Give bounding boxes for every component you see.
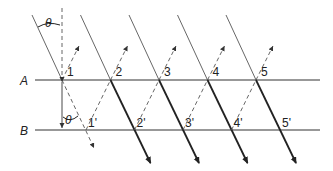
point-label-b: 1' [88,116,97,130]
point-label-b: 4' [234,116,243,130]
point-label-b: 2' [137,116,146,130]
angle-label-top: θ [45,16,52,30]
point-label-b: 3' [185,116,194,130]
angle-label-lower: θ [65,113,72,127]
point-label-a: 2 [116,65,123,79]
incident-ray [129,15,159,80]
incident-ray [226,15,256,80]
point-label-a: 4 [213,65,220,79]
line-a-label: A [19,74,28,88]
point-label-a: 3 [164,65,171,79]
point-label-a: 5 [261,65,268,79]
line-b-label: B [20,124,28,138]
point-label-b: 5' [282,116,291,130]
incident-ray [178,15,208,80]
incident-ray [81,15,111,80]
point-label-a: 1 [67,65,74,79]
interference-diagram: A B 11'22'33'44'55' θ θ [0,0,333,171]
